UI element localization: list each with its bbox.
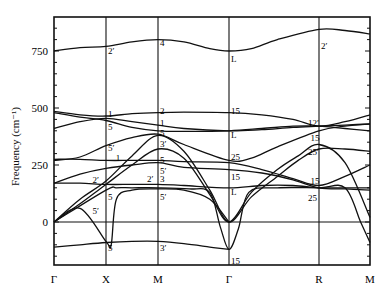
branch-b11 xyxy=(54,189,229,249)
symmetry-label: 15 xyxy=(231,106,241,116)
kpoint-m-2: M xyxy=(365,273,375,285)
plot-frame xyxy=(54,17,370,265)
symmetry-label: 1 xyxy=(116,153,121,163)
symmetry-label: 4 xyxy=(160,38,165,48)
kpoint-x: X xyxy=(102,273,110,285)
symmetry-label: 5 xyxy=(160,128,165,138)
symmetry-label: 15 xyxy=(311,133,321,143)
branch-b9 xyxy=(54,135,370,222)
symmetry-label: 1 xyxy=(160,118,165,128)
symmetry-label: 5 xyxy=(160,155,165,165)
symmetry-label: 15 xyxy=(231,172,241,182)
ytick-250: 250 xyxy=(32,159,49,171)
y-tick-labels: 750 500 250 0 xyxy=(32,45,49,228)
symmetry-label: 2′ xyxy=(147,174,154,184)
symmetry-label: 2 xyxy=(160,106,165,116)
branch-bottom xyxy=(54,241,229,249)
symmetry-label: 25 xyxy=(231,152,241,162)
symmetry-label: 25′ xyxy=(308,147,319,157)
symmetry-label: 5 xyxy=(108,122,113,132)
ytick-750: 750 xyxy=(32,45,49,57)
y-axis-label: Frequency (cm⁻¹) xyxy=(9,102,22,192)
symmetry-label: L xyxy=(231,54,237,64)
symmetry-label: 15 xyxy=(231,256,241,266)
branch-b4 xyxy=(54,124,370,161)
symmetry-label: 5 xyxy=(108,243,113,253)
symmetry-label: 3′ xyxy=(160,243,167,253)
branch-b6 xyxy=(54,163,370,190)
kpoint-r: R xyxy=(315,273,323,285)
branch-b8 xyxy=(54,144,370,222)
symmetry-label: 3 xyxy=(160,174,165,184)
symmetry-label: 5 xyxy=(108,192,113,202)
symmetry-label: 1 xyxy=(108,109,113,119)
symmetry-label: 3′ xyxy=(160,139,167,149)
symmetry-label: 2′ xyxy=(92,175,99,185)
branch-b5 xyxy=(54,159,370,185)
symmetry-annotations: 2′4L2′155′12′5′552153′55′2′35′3′15L2515L… xyxy=(92,38,327,266)
symmetry-label: 25 xyxy=(308,193,318,203)
symmetry-label: 12′ xyxy=(308,118,319,128)
kpoint-m-1: M xyxy=(153,273,163,285)
branch-b10 xyxy=(54,185,370,249)
symmetry-label: 2′ xyxy=(321,41,328,51)
symmetry-label: 5′ xyxy=(92,206,99,216)
ytick-0: 0 xyxy=(43,216,49,228)
kpoint-gamma-1: Γ xyxy=(51,273,57,285)
symmetry-label: 5′ xyxy=(160,192,167,202)
symmetry-label: 5′ xyxy=(108,143,115,153)
k-point-labels: Γ X M Γ R M xyxy=(51,273,375,285)
symmetry-label: 2′ xyxy=(108,46,115,56)
phonon-dispersion-chart: 750 500 250 0 Γ X M Γ R M 2′4L2′155′12′5… xyxy=(0,0,388,299)
high-symmetry-lines xyxy=(106,17,319,265)
ytick-500: 500 xyxy=(32,102,49,114)
kpoint-gamma-2: Γ xyxy=(226,273,232,285)
symmetry-label: 15 xyxy=(311,176,321,186)
symmetry-label: L xyxy=(231,187,237,197)
dispersion-branches xyxy=(54,29,370,250)
symmetry-label: L xyxy=(231,130,237,140)
